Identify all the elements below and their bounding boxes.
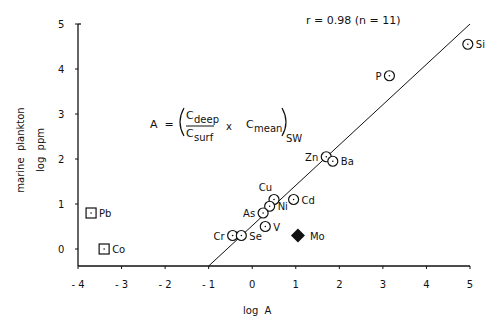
- formula-lhs: A =: [150, 118, 174, 131]
- data-point-ba: Ba: [328, 156, 354, 167]
- data-point-pb: Pb: [86, 208, 111, 219]
- point-label: Cu: [259, 182, 272, 193]
- marker-dot: [264, 226, 266, 228]
- y-tick-label: 4: [58, 64, 64, 75]
- marker-dot: [269, 205, 271, 207]
- data-point-v: V: [260, 222, 280, 233]
- marker-dot: [325, 156, 327, 158]
- formula-times: x: [226, 121, 232, 132]
- formula-den: C: [186, 127, 194, 140]
- point-label: Ni: [278, 201, 288, 212]
- x-tick-label: 5: [467, 279, 473, 290]
- x-tick-label: - 4: [71, 279, 84, 290]
- formula-num-sub: deep: [194, 114, 219, 125]
- stats-annotation: r = 0.98 (n = 11): [306, 14, 400, 27]
- x-axis-label: log A: [243, 305, 272, 316]
- y-tick-label: 1: [58, 199, 64, 210]
- formula-mean: C: [246, 118, 254, 131]
- y-tick-label: 2: [58, 154, 64, 165]
- y-axis-label-2: log ppm: [35, 128, 46, 172]
- x-tick-label: - 3: [115, 279, 128, 290]
- data-point-cd: Cd: [289, 195, 315, 206]
- point-label: Si: [476, 39, 485, 50]
- x-tick-label: - 1: [202, 279, 215, 290]
- y-tick-label: 3: [58, 109, 64, 120]
- x-tick-label: 2: [336, 279, 342, 290]
- x-tick-label: 3: [380, 279, 386, 290]
- marker-dot: [103, 248, 105, 250]
- y-tick-label: 5: [58, 19, 64, 30]
- point-label: V: [273, 222, 280, 233]
- scatter-chart: 012345- 4- 3- 2- 1012345 SiPZnBaCuCdNiAs…: [0, 0, 502, 330]
- marker-dot: [232, 235, 234, 237]
- point-label: Cd: [302, 195, 315, 206]
- data-point-mo: Mo: [291, 229, 325, 243]
- formula: A = C deep C surf x C mean SW: [150, 108, 302, 144]
- data-point-p: P: [375, 71, 394, 82]
- x-tick-label: - 2: [159, 279, 172, 290]
- formula-num: C: [186, 109, 194, 122]
- data-point-co: Co: [99, 244, 125, 255]
- formula-mean-sub: mean: [254, 123, 282, 134]
- point-label: As: [243, 208, 255, 219]
- y-axis-label-1: marine plankton: [15, 107, 26, 192]
- point-label: Cr: [214, 231, 226, 242]
- marker-dot: [389, 75, 391, 77]
- marker-dot: [262, 212, 264, 214]
- point-label: Ba: [341, 156, 354, 167]
- marker-dot: [293, 199, 295, 201]
- y-tick-label: 0: [58, 244, 64, 255]
- data-points: SiPZnBaCuCdNiAsVCrSePbCoMo: [86, 39, 485, 255]
- marker-dot: [241, 235, 243, 237]
- data-point-as: As: [243, 208, 268, 219]
- regression-line: [209, 24, 470, 266]
- x-tick-label: 0: [249, 279, 255, 290]
- marker-dot: [332, 160, 334, 162]
- point-label: Mo: [310, 231, 325, 242]
- marker-dot: [467, 43, 469, 45]
- point-label: Zn: [305, 152, 318, 163]
- marker-dot: [90, 212, 92, 214]
- point-label: P: [375, 71, 381, 82]
- regression-line-path: [209, 24, 470, 266]
- x-tick-label: 4: [423, 279, 429, 290]
- data-point-se: Se: [236, 231, 261, 242]
- formula-den-sub: surf: [194, 132, 214, 143]
- point-label: Se: [249, 231, 261, 242]
- point-label: Pb: [99, 208, 111, 219]
- formula-outer-sub: SW: [286, 133, 302, 144]
- x-tick-label: 1: [293, 279, 299, 290]
- point-label: Co: [112, 244, 125, 255]
- diamond-marker-icon: [291, 229, 305, 243]
- data-point-cr: Cr: [214, 231, 238, 242]
- marker-dot: [273, 199, 275, 201]
- data-point-si: Si: [463, 39, 485, 50]
